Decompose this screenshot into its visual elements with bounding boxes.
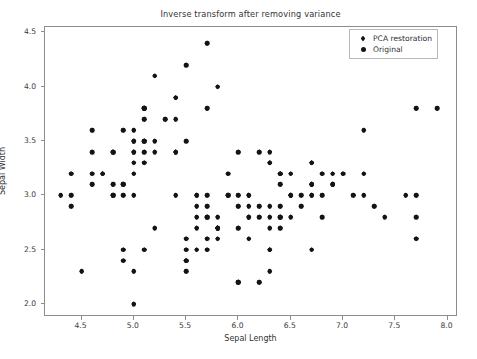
data-point [414, 106, 419, 111]
y-tick-mark [41, 31, 45, 32]
data-point [257, 280, 262, 285]
data-point [111, 150, 116, 155]
x-tick-mark [290, 316, 291, 320]
data-point [257, 204, 262, 209]
data-point [226, 171, 231, 176]
data-point [341, 171, 346, 176]
data-point [288, 171, 293, 176]
y-tick-mark [41, 86, 45, 87]
data-point [184, 247, 189, 252]
y-tick-mark [41, 194, 45, 195]
data-point [121, 193, 126, 198]
data-point [309, 160, 314, 165]
y-tick-label: 2.0 [24, 298, 36, 307]
x-tick-mark [342, 316, 343, 320]
data-point [309, 182, 314, 187]
data-point [268, 247, 273, 252]
data-point [309, 247, 314, 252]
data-point [320, 193, 325, 198]
y-tick-label: 4.0 [24, 81, 36, 90]
data-point [69, 193, 74, 198]
data-point [142, 106, 147, 111]
data-point [299, 193, 304, 198]
data-point [58, 193, 63, 198]
data-point [257, 215, 262, 220]
data-point [268, 160, 273, 165]
data-point [268, 215, 273, 220]
data-point [236, 150, 241, 155]
data-point [205, 204, 210, 209]
data-point [132, 128, 137, 133]
data-point [132, 139, 137, 144]
data-point [152, 226, 157, 231]
data-point [79, 269, 84, 274]
data-point [132, 160, 137, 165]
x-tick-label: 6.0 [231, 321, 243, 330]
data-point [247, 215, 252, 220]
data-point [132, 171, 137, 176]
circle-icon [354, 47, 372, 52]
data-point [194, 204, 199, 209]
data-point [90, 171, 95, 176]
data-point [205, 215, 210, 220]
data-point [194, 215, 199, 220]
x-tick-mark [133, 316, 134, 320]
data-point [247, 204, 252, 209]
data-point [111, 182, 116, 187]
data-point [132, 150, 137, 155]
data-point [414, 237, 419, 242]
data-point [278, 182, 283, 187]
data-point [205, 237, 210, 242]
data-point [142, 160, 147, 165]
data-point [236, 280, 241, 285]
data-point [90, 182, 95, 187]
x-tick-label: 6.5 [284, 321, 296, 330]
data-point [152, 139, 157, 144]
diamond-icon [354, 36, 372, 42]
data-point [184, 139, 189, 144]
y-tick-mark [41, 140, 45, 141]
x-tick-label: 8.0 [440, 321, 452, 330]
data-point [184, 258, 189, 263]
data-point [100, 171, 105, 176]
data-point [268, 150, 273, 155]
data-point [309, 193, 314, 198]
scatter-points-layer [45, 27, 456, 315]
data-point [330, 182, 335, 187]
x-tick-label: 5.0 [127, 321, 139, 330]
x-tick-mark [394, 316, 395, 320]
data-point [205, 41, 210, 46]
data-point [142, 117, 147, 122]
data-point [173, 117, 178, 122]
x-tick-label: 7.0 [336, 321, 348, 330]
data-point [132, 269, 137, 274]
data-point [299, 204, 304, 209]
data-point [111, 193, 116, 198]
data-point [236, 226, 241, 231]
data-point [121, 247, 126, 252]
data-point [205, 247, 210, 252]
chart-title: Inverse transform after removing varianc… [44, 9, 457, 19]
legend-entry: Original [354, 44, 432, 55]
data-point [362, 171, 367, 176]
x-tick-mark [447, 316, 448, 320]
data-point [121, 258, 126, 263]
x-tick-mark [237, 316, 238, 320]
data-point [288, 215, 293, 220]
y-tick-label: 3.0 [24, 190, 36, 199]
data-point [121, 182, 126, 187]
x-tick-mark [185, 316, 186, 320]
data-point [132, 302, 137, 307]
data-point [320, 215, 325, 220]
data-point [194, 226, 199, 231]
x-axis-label: Sepal Length [44, 334, 457, 343]
data-point [215, 84, 220, 89]
legend-label: Original [372, 45, 403, 54]
data-point [247, 193, 252, 198]
y-axis-label: Sepal Width [0, 126, 7, 216]
data-point [90, 150, 95, 155]
data-point [69, 204, 74, 209]
x-tick-label: 4.5 [75, 321, 87, 330]
data-point [362, 128, 367, 133]
data-point [163, 117, 168, 122]
